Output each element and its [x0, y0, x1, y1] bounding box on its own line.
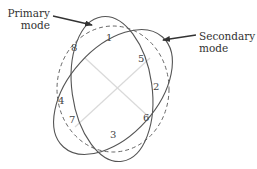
secondary-mode-label: Secondary mode — [199, 30, 257, 54]
point-label-5: 5 — [138, 54, 144, 64]
point-label-4: 4 — [58, 96, 64, 106]
primary-mode-arrow — [53, 16, 92, 25]
secondary-mode-ellipse — [31, 8, 195, 169]
primary-mode-label-line2: mode — [6, 19, 50, 31]
secondary-mode-label-line2: mode — [199, 42, 257, 54]
point-label-7: 7 — [69, 115, 75, 125]
primary-mode-label-line1: Primary — [6, 7, 50, 19]
secondary-mode-label-line1: Secondary — [199, 30, 257, 42]
secondary-mode-arrow — [163, 35, 196, 40]
point-label-1: 1 — [106, 33, 112, 43]
primary-mode-label: Primary mode — [6, 7, 50, 31]
point-label-3: 3 — [110, 130, 116, 140]
center-cross — [75, 58, 150, 127]
point-label-6: 6 — [143, 113, 149, 123]
point-label-8: 8 — [71, 43, 77, 53]
point-label-2: 2 — [153, 82, 159, 92]
